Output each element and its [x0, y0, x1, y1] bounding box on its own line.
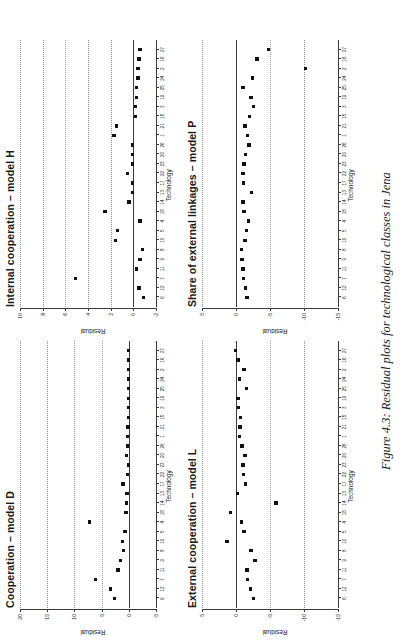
- x-axis-tick-label: 24: [342, 377, 347, 382]
- x-axis-tick-label: 15: [342, 415, 347, 420]
- data-point: [131, 181, 134, 184]
- data-point: [126, 425, 129, 428]
- x-axis-tick-label: 25: [342, 85, 347, 90]
- x-axis-tick: [338, 87, 341, 88]
- gridline: [20, 341, 21, 608]
- data-point: [109, 587, 112, 590]
- data-point: [131, 162, 134, 165]
- x-axis-tick-label: 18: [342, 510, 347, 515]
- x-axis-tick: [338, 569, 341, 570]
- x-axis-tick: [156, 416, 159, 417]
- data-point: [134, 105, 137, 108]
- y-axis-tick-label: 5: [199, 313, 205, 316]
- y-axis-tick-label: 6: [62, 313, 68, 316]
- x-axis-tick-label: 8: [160, 550, 165, 553]
- x-axis-tick-label: 26: [160, 142, 165, 147]
- data-point: [245, 387, 248, 390]
- x-axis-tick-label: 2: [342, 67, 347, 70]
- data-point: [125, 492, 128, 495]
- data-point: [241, 463, 244, 466]
- x-axis-tick: [338, 134, 341, 135]
- data-point: [242, 473, 245, 476]
- x-axis-tick: [338, 588, 341, 589]
- x-axis-tick-label: 5: [160, 530, 165, 533]
- x-axis-tick-label: 7: [342, 578, 347, 581]
- x-axis-tick-label: 1: [160, 435, 165, 438]
- panel-model-d: Cooperation – model D -505101520 Residua…: [4, 339, 182, 634]
- y-axis-tick: [43, 308, 44, 311]
- x-axis-tick: [338, 407, 341, 408]
- y-axis-tick-label: -15: [335, 313, 341, 321]
- gridline: [304, 341, 305, 608]
- data-point: [236, 397, 239, 400]
- x-axis-tick: [338, 493, 341, 494]
- data-point: [119, 559, 122, 562]
- x-axis-tick: [338, 258, 341, 259]
- x-axis-tick: [338, 578, 341, 579]
- data-point: [240, 520, 243, 523]
- x-axis-model-l: 6127119810541814131722232026121153192524…: [338, 341, 339, 608]
- x-axis-tick: [338, 249, 341, 250]
- data-point: [249, 96, 252, 99]
- y-axis-tick-label: 8: [40, 313, 46, 316]
- y-axis-tick-label: 10: [71, 614, 77, 620]
- x-axis-tick-label: 21: [342, 123, 347, 128]
- x-axis-tick: [338, 68, 341, 69]
- data-point: [116, 229, 119, 232]
- x-axis-tick-label: 25: [342, 386, 347, 391]
- x-axis-tick: [156, 239, 159, 240]
- data-point: [136, 67, 139, 70]
- y-axis-tick: [20, 609, 21, 612]
- x-axis-tick: [156, 493, 159, 494]
- x-axis-tick: [338, 416, 341, 417]
- gridline: [74, 341, 75, 608]
- x-axis-tick-label: 8: [342, 249, 347, 252]
- panel-title-model-l: External cooperation – model L: [186, 449, 198, 608]
- x-axis-tick-label: 7: [160, 277, 165, 280]
- x-axis-tick: [156, 397, 159, 398]
- x-axis-tick: [338, 220, 341, 221]
- x-axis-tick-label: 8: [160, 249, 165, 252]
- data-point: [127, 387, 130, 390]
- data-point: [138, 219, 141, 222]
- data-point: [125, 501, 128, 504]
- x-axis-tick-label: 16: [160, 57, 165, 62]
- x-axis-title-model-h: Technology: [165, 169, 172, 201]
- y-axis-tick: [88, 308, 89, 311]
- data-point: [234, 349, 237, 352]
- data-point: [249, 549, 252, 552]
- x-axis-tick-label: 27: [160, 348, 165, 353]
- x-axis-tick: [338, 77, 341, 78]
- x-axis-tick: [156, 559, 159, 560]
- x-axis-tick-label: 11: [342, 567, 347, 572]
- x-axis-tick: [156, 569, 159, 570]
- data-point: [246, 134, 249, 137]
- x-axis-tick: [156, 378, 159, 379]
- gridline: [304, 40, 305, 307]
- x-axis-tick: [338, 192, 341, 193]
- x-axis-tick-label: 7: [342, 277, 347, 280]
- figure-page: Cooperation – model D -505101520 Residua…: [0, 0, 403, 642]
- gridline: [202, 40, 203, 307]
- data-point: [127, 406, 130, 409]
- x-axis-model-d: 6127119810541814131722232026121153192524…: [156, 341, 157, 608]
- x-axis-tick: [338, 268, 341, 269]
- x-axis-tick: [156, 144, 159, 145]
- y-axis-model-p: -15-10-505: [202, 308, 338, 309]
- x-axis-tick-label: 11: [160, 266, 165, 271]
- data-point: [244, 482, 247, 485]
- data-point: [112, 134, 115, 137]
- data-point: [127, 463, 130, 466]
- x-axis-tick-label: 12: [160, 285, 165, 290]
- y-axis-tick-label: 2: [108, 313, 114, 316]
- x-axis-tick: [338, 454, 341, 455]
- data-point: [237, 406, 240, 409]
- data-point: [94, 578, 97, 581]
- x-axis-tick: [338, 359, 341, 360]
- data-point: [74, 277, 77, 280]
- data-point: [137, 286, 140, 289]
- data-point: [127, 377, 130, 380]
- panel-title-model-h: Internal cooperation – model H: [4, 150, 16, 307]
- gridline: [43, 40, 44, 307]
- x-axis-tick: [338, 597, 341, 598]
